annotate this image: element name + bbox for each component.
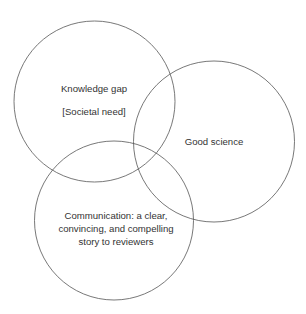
knowledge-gap-label: Knowledge gap [61, 82, 127, 95]
communication-label-line-1: Communication: a clear, [65, 209, 168, 222]
circle-knowledge-gap [14, 21, 175, 182]
communication-label-line-2: convincing, and compelling [58, 222, 173, 235]
societal-need-label: [Societal need] [62, 105, 125, 118]
communication-label-line-3: story to reviewers [78, 235, 153, 248]
venn-diagram [0, 0, 306, 314]
good-science-label: Good science [185, 135, 244, 148]
